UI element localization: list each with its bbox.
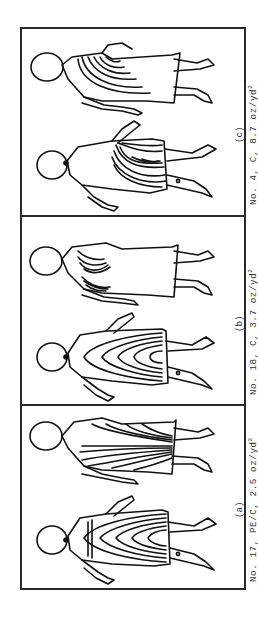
panel-b: (b) No. 18, C, 3.7 oz/yd2 <box>22 215 244 404</box>
panel-a-caption-text: No. 17, PE/C, 2.5 oz/yd <box>248 441 258 582</box>
panel-c-caption-superscript: 2 <box>247 85 254 89</box>
front-view-figure <box>37 121 216 211</box>
panel-c-tag: (c) <box>234 126 245 143</box>
back-view-figure <box>31 43 214 115</box>
panel-b-caption-text: No. 18, C, 3.7 oz/yd <box>248 273 258 395</box>
panel-b-caption-superscript: 2 <box>247 269 254 273</box>
panel-a: (a) No. 17, PE/C, 2.5 oz/yd2 <box>22 404 244 590</box>
panel-c-caption-text: No. 4, C, 8.7 oz/yd <box>248 89 258 205</box>
front-view-figure <box>37 313 214 401</box>
panel-b-illustration <box>22 217 244 404</box>
panel-a-caption-superscript: 2 <box>247 437 254 441</box>
figure-frame: (c) No. 4, C, 8.7 oz/yd2 <box>20 27 246 590</box>
panel-a-caption: No. 17, PE/C, 2.5 oz/yd2 <box>247 437 258 582</box>
back-view-figure <box>30 243 214 305</box>
panel-c-caption: No. 4, C, 8.7 oz/yd2 <box>247 85 258 205</box>
panel-c: (c) No. 4, C, 8.7 oz/yd2 <box>22 29 244 214</box>
panel-a-illustration <box>22 406 244 590</box>
back-view-figure <box>30 418 214 484</box>
panel-b-caption: No. 18, C, 3.7 oz/yd2 <box>247 269 258 395</box>
panel-b-tag: (b) <box>234 315 245 332</box>
panel-a-tag: (a) <box>234 501 245 518</box>
panel-c-illustration <box>22 29 244 214</box>
front-view-figure <box>37 496 216 584</box>
